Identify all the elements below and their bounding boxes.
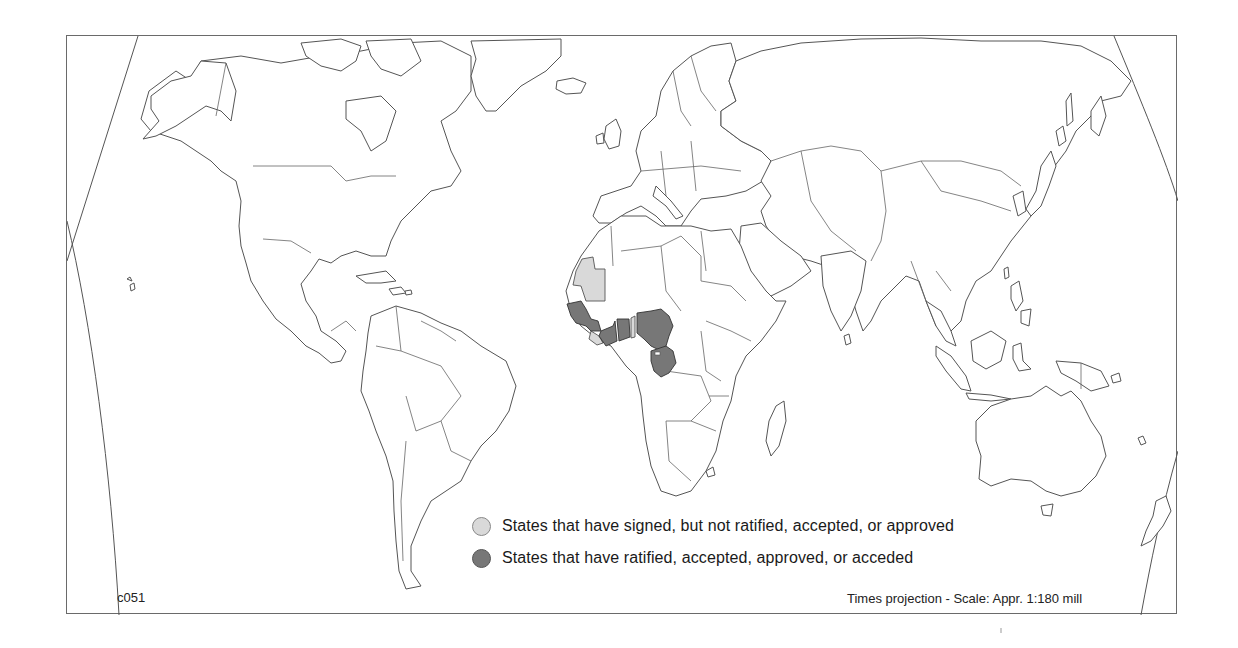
- projection-note: Times projection - Scale: Appr. 1:180 mi…: [847, 591, 1082, 606]
- sulawesi: [1013, 343, 1031, 371]
- borneo: [971, 331, 1006, 369]
- legend-item-signed: States that have signed, but not ratifie…: [472, 510, 954, 542]
- sumatra: [936, 346, 971, 391]
- british-isles: [604, 119, 621, 149]
- legend-label-signed: States that have signed, but not ratifie…: [502, 517, 954, 535]
- legend-label-ratified: States that have ratified, accepted, app…: [502, 549, 913, 567]
- left-gore-line: [67, 36, 138, 261]
- map-code: c051: [117, 590, 145, 605]
- madagascar: [766, 401, 786, 456]
- scan-artifact: [1000, 628, 1002, 633]
- left-edge-curve: [67, 221, 119, 615]
- legend-item-ratified: States that have ratified, accepted, app…: [472, 542, 954, 574]
- java: [966, 393, 1011, 401]
- iceland: [556, 78, 586, 94]
- map-legend: States that have signed, but not ratifie…: [472, 510, 954, 574]
- greenland: [471, 39, 561, 111]
- right-gore-upper: [1114, 36, 1178, 201]
- new-guinea: [1056, 361, 1109, 391]
- legend-swatch-signed-icon: [472, 517, 491, 536]
- region-ghana-ratified: [617, 319, 630, 341]
- australia: [976, 386, 1106, 496]
- legend-swatch-ratified-icon: [472, 549, 491, 568]
- region-togo-signed: [631, 316, 635, 338]
